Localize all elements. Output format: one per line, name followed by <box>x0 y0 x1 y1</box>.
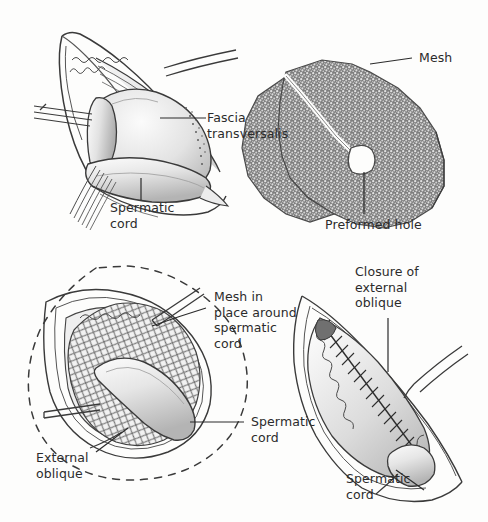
label-fascia-transversalis: Fascia transversalis <box>207 110 288 141</box>
label-spermatic-cord-bottom-left: Spermatic cord <box>251 414 315 445</box>
label-mesh-in-place: Mesh in place around spermatic cord <box>214 289 297 351</box>
label-mesh: Mesh <box>419 50 452 66</box>
panel-top-right-drawing <box>242 60 444 228</box>
label-spermatic-cord-top: Spermatic cord <box>110 200 174 231</box>
surgical-illustration-figure <box>0 0 488 522</box>
label-closure-of-external-oblique: Closure of external oblique <box>355 264 419 311</box>
label-preformed-hole: Preformed hole <box>325 217 422 233</box>
label-external-oblique: External oblique <box>36 450 89 481</box>
illustration-canvas <box>0 0 488 522</box>
label-spermatic-cord-bottom-right: Spermatic cord <box>346 471 410 502</box>
leader-mesh <box>370 58 412 64</box>
